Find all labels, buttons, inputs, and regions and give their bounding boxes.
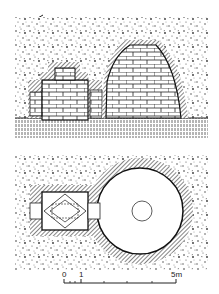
scale-bar: 0 1 5m [62, 270, 182, 283]
antechamber [42, 192, 88, 230]
antechamber-step [55, 68, 75, 80]
scale-label-5m: 5m [171, 270, 182, 279]
inner-passage [90, 90, 102, 118]
entrance-passage [30, 92, 42, 116]
inner-passage [88, 203, 100, 219]
plan-view [15, 155, 208, 270]
central-pit [132, 201, 152, 221]
scale-label-1: 1 [79, 270, 84, 279]
scale-label-0: 0 [62, 270, 67, 279]
section-view [15, 15, 208, 138]
ground-hatch [15, 118, 208, 138]
tomb-drawing: 0 1 5m [0, 0, 219, 294]
antechamber-block [42, 80, 88, 120]
entrance-passage [30, 203, 42, 219]
